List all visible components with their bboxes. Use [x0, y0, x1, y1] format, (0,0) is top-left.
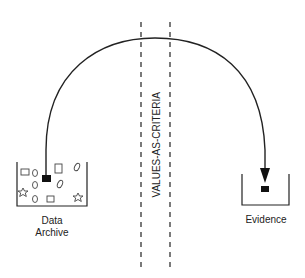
star-icon	[18, 188, 28, 197]
evidence-label: Evidence	[236, 214, 296, 226]
values-as-criteria-label: VALUES-AS-CRITERIA	[151, 98, 162, 198]
oval-icon	[33, 170, 38, 177]
oval-icon	[33, 182, 38, 189]
oval-icon	[73, 162, 81, 171]
square-icon	[55, 164, 62, 173]
data-archive-label: Data Archive	[22, 215, 82, 239]
star-icon	[73, 193, 83, 202]
selected-item-icon	[42, 175, 51, 182]
evidence-item-icon	[261, 186, 269, 192]
square-icon	[21, 169, 29, 175]
data-archive-label-line2: Archive	[22, 227, 82, 239]
square-icon	[47, 196, 54, 202]
data-archive-label-line1: Data	[22, 215, 82, 227]
arrowhead-icon	[260, 168, 270, 183]
oval-icon	[56, 179, 64, 188]
archive-shapes	[18, 162, 83, 202]
oval-icon	[33, 196, 38, 203]
